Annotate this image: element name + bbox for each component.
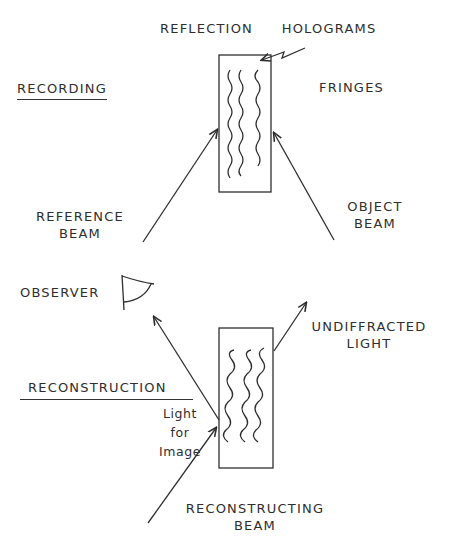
diagram-title: REFLECTION HOLOGRAMS: [160, 20, 376, 37]
reconstructing-beam-line-2: BEAM: [170, 517, 340, 534]
observer-label: OBSERVER: [20, 284, 99, 301]
observer-eye-icon: [122, 275, 154, 310]
fringes-label: FRINGES: [319, 79, 384, 96]
reference-beam-line-1: REFERENCE: [25, 208, 135, 225]
object-beam-line-1: OBJECT: [335, 198, 415, 215]
undiffracted-line-2: LIGHT: [308, 335, 430, 352]
reconstruction-fringe-3: [253, 348, 264, 442]
recording-fringe-1: [228, 70, 232, 178]
undiffracted-light-label: UNDIFFRACTED LIGHT: [308, 318, 430, 352]
title-word-reflection: REFLECTION: [160, 21, 253, 36]
reconstruction-fringe-2: [240, 350, 251, 442]
recording-fringe-3: [255, 70, 260, 166]
reconstruction-fringe-1: [223, 350, 234, 442]
reference-beam-arrow: [143, 130, 217, 242]
undiffracted-line-1: UNDIFFRACTED: [308, 318, 430, 335]
undiffracted-light-arrow: [274, 303, 306, 351]
object-beam-line-2: BEAM: [335, 215, 415, 232]
light-for-image-label: Light for Image: [150, 404, 210, 461]
reflection-holograms-diagram: REFLECTION HOLOGRAMS RECORDING FRINGES R…: [0, 0, 459, 544]
reconstructing-beam-line-1: RECONSTRUCTING: [170, 500, 340, 517]
recording-heading: RECORDING: [17, 80, 107, 100]
recording-fringe-2: [239, 70, 243, 176]
object-beam-arrow: [274, 133, 334, 240]
title-word-holograms: HOLOGRAMS: [282, 21, 377, 36]
reconstruction-hologram-plate: [219, 328, 273, 468]
light-for-image-line-2: for: [150, 423, 210, 442]
light-for-image-line-3: Image: [150, 442, 210, 461]
reconstructing-beam-label: RECONSTRUCTING BEAM: [170, 500, 340, 534]
fringes-pointer-arrow: [262, 48, 305, 60]
object-beam-label: OBJECT BEAM: [335, 198, 415, 232]
reference-beam-line-2: BEAM: [25, 225, 135, 242]
recording-hologram-plate: [219, 55, 271, 192]
reconstruction-heading: RECONSTRUCTION: [20, 379, 193, 400]
light-for-image-line-1: Light: [150, 404, 210, 423]
reference-beam-label: REFERENCE BEAM: [25, 208, 135, 242]
